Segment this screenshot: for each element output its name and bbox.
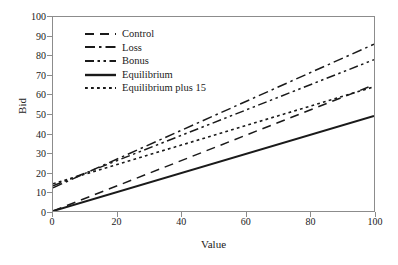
x-tick-label: 20 — [112, 216, 122, 227]
x-axis-title: Value — [52, 238, 375, 250]
x-tick-mark — [310, 212, 311, 217]
legend-line-sample — [85, 83, 116, 93]
series-line — [53, 85, 374, 211]
legend-label: Equilibrium plus 15 — [122, 81, 206, 95]
legend-item: Equilibrium plus 15 — [85, 81, 206, 95]
line-chart-figure: Bid 0102030405060708090100 020406080100 … — [0, 0, 398, 265]
series-line — [53, 87, 374, 184]
x-tick-label: 100 — [368, 216, 383, 227]
x-tick-mark — [246, 212, 247, 217]
x-tick-mark — [117, 212, 118, 217]
legend-item: Loss — [85, 41, 206, 55]
legend-item: Equilibrium — [85, 68, 206, 82]
legend-label: Bonus — [122, 54, 149, 68]
legend-line-sample — [85, 42, 116, 52]
x-tick-mark — [375, 212, 376, 217]
legend-line-sample — [85, 29, 116, 39]
series-line — [53, 116, 374, 211]
legend-label: Equilibrium — [122, 68, 173, 82]
x-tick-mark — [52, 212, 53, 217]
legend-label: Loss — [122, 41, 142, 55]
x-tick-label: 40 — [176, 216, 186, 227]
x-tick-mark — [181, 212, 182, 217]
legend-item: Bonus — [85, 54, 206, 68]
x-tick-label: 60 — [241, 216, 251, 227]
legend-label: Control — [122, 27, 154, 41]
legend-line-sample — [85, 56, 116, 66]
x-tick-label: 0 — [50, 216, 55, 227]
legend-line-sample — [85, 70, 116, 80]
x-tick-label: 80 — [305, 216, 315, 227]
legend-item: Control — [85, 27, 206, 41]
legend: ControlLossBonusEquilibriumEquilibrium p… — [85, 27, 206, 95]
